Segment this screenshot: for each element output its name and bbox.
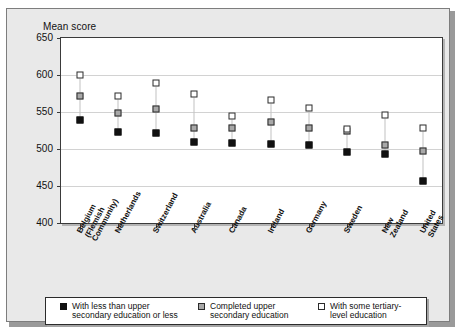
data-point-marker <box>343 126 350 133</box>
data-point-marker <box>267 140 274 147</box>
y-tick-label: 650 <box>27 32 53 43</box>
data-point-marker <box>381 151 388 158</box>
data-point-marker <box>229 112 236 119</box>
plot-area <box>60 37 443 224</box>
y-tick-label: 450 <box>27 180 53 191</box>
data-point-marker <box>419 148 426 155</box>
data-point-marker <box>77 92 84 99</box>
y-tick-mark <box>57 38 61 39</box>
data-point-marker <box>77 117 84 124</box>
legend-item: With less than upper secondary education… <box>60 302 178 321</box>
data-point-marker <box>229 125 236 132</box>
y-tick-label: 500 <box>27 143 53 154</box>
data-point-marker <box>229 140 236 147</box>
data-point-marker <box>115 92 122 99</box>
data-point-marker <box>305 125 312 132</box>
data-point-marker <box>267 97 274 104</box>
chart-legend: With less than upper secondary education… <box>45 297 427 325</box>
data-point-marker <box>419 125 426 132</box>
data-point-marker <box>381 111 388 118</box>
data-point-marker <box>191 125 198 132</box>
legend-item: With some tertiary- level education <box>318 302 401 321</box>
y-tick-mark <box>57 186 61 187</box>
open-square-icon <box>318 303 325 310</box>
data-point-marker <box>267 118 274 125</box>
y-tick-mark <box>57 112 61 113</box>
y-tick-label: 600 <box>27 69 53 80</box>
data-point-marker <box>115 128 122 135</box>
data-point-marker <box>343 148 350 155</box>
y-tick-mark <box>57 223 61 224</box>
gridline <box>61 75 442 76</box>
filled-gray-square-icon <box>198 303 205 310</box>
data-point-marker <box>77 72 84 79</box>
y-tick-mark <box>57 149 61 150</box>
y-tick-mark <box>57 75 61 76</box>
data-point-marker <box>305 105 312 112</box>
y-tick-label: 550 <box>27 106 53 117</box>
figure-panel: Mean score 400450500550600650 Belgium (F… <box>6 8 450 322</box>
filled-black-square-icon <box>60 303 67 310</box>
gridline <box>61 186 442 187</box>
data-point-marker <box>153 80 160 87</box>
data-point-marker <box>115 109 122 116</box>
data-point-marker <box>191 139 198 146</box>
legend-item: Completed upper secondary education <box>198 302 288 321</box>
y-axis-title: Mean score <box>43 21 96 32</box>
data-point-marker <box>419 177 426 184</box>
legend-label: Completed upper secondary education <box>210 302 288 321</box>
connector-line <box>194 94 195 142</box>
data-point-marker <box>381 142 388 149</box>
legend-label: With some tertiary- level education <box>330 302 401 321</box>
legend-label: With less than upper secondary education… <box>72 302 178 321</box>
data-point-marker <box>153 106 160 113</box>
data-point-marker <box>153 130 160 137</box>
y-tick-label: 400 <box>27 217 53 228</box>
data-point-marker <box>191 91 198 98</box>
data-point-marker <box>305 142 312 149</box>
